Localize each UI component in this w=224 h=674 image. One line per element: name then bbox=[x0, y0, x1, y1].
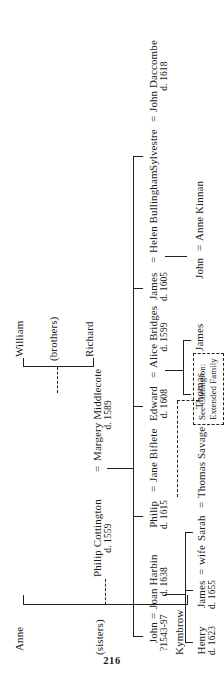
equals-sign: = bbox=[195, 500, 207, 510]
node-sisters: (sisters) bbox=[93, 619, 105, 655]
equals-sign: = bbox=[147, 484, 159, 494]
node-alice-bridges-dates: d. 1599 bbox=[159, 306, 170, 368]
node-margery-middlecote: Margery Middlecote d. 1589 bbox=[91, 369, 114, 461]
node-james-helen: James d. 1605 bbox=[147, 272, 170, 301]
marriage-equals-john2-annek: = bbox=[193, 243, 205, 253]
equals-sign: = bbox=[91, 464, 103, 474]
marriage-equals-sarah-savage: = bbox=[195, 500, 207, 510]
node-margery-middlecote-dates: d. 1589 bbox=[103, 369, 114, 461]
node-james-helen-name: James bbox=[147, 272, 159, 301]
descent-drop-john-joan bbox=[165, 594, 185, 595]
node-henry-dates: d. 1623 bbox=[207, 626, 218, 655]
node-alice-bridges: Alice Bridges d. 1599 bbox=[147, 306, 170, 368]
children-spine-john-joan bbox=[185, 533, 186, 643]
node-thomas: Thomas bbox=[193, 373, 205, 409]
brothers-bracket-stub-top bbox=[23, 358, 24, 367]
marriage-equals-philip-jane: = bbox=[147, 484, 159, 494]
marriage-equals-james-helen: = bbox=[147, 255, 159, 265]
see-box-line-2: Extended Family bbox=[208, 358, 219, 420]
node-joan-harbin-dates: d. 1638 bbox=[159, 554, 170, 609]
node-richard-name: Richard bbox=[83, 321, 95, 357]
children-spine-generation-2 bbox=[133, 157, 134, 637]
node-john-daccombe-name: John Daccombe bbox=[147, 40, 159, 112]
marriage-equals-edward-alice: = bbox=[147, 370, 159, 380]
child-stub-sarah bbox=[185, 532, 193, 533]
book-page: Anne (sisters) Kymbrow Philip Cottington… bbox=[0, 0, 224, 674]
brothers-bracket-stub-bottom bbox=[93, 358, 94, 367]
node-wife-label: wife bbox=[195, 545, 207, 565]
node-william-name: William bbox=[13, 321, 25, 357]
node-alice-bridges-name: Alice Bridges bbox=[147, 306, 159, 368]
node-sylvestre: Sylvestre bbox=[147, 129, 159, 171]
equals-sign: = bbox=[195, 567, 207, 577]
child-stub-james-son bbox=[183, 340, 191, 341]
node-anne: Anne bbox=[13, 627, 25, 651]
equals-sign: = bbox=[147, 370, 159, 380]
sisters-bracket-stub-bottom bbox=[187, 595, 188, 605]
child-stub-james bbox=[133, 288, 143, 289]
node-john-2: John bbox=[193, 258, 205, 279]
node-philip-2: Philip d. 1615 bbox=[147, 500, 170, 529]
node-sarah: Sarah bbox=[195, 515, 207, 541]
node-edward: Edward d. 1608 bbox=[147, 386, 170, 421]
node-james-wife: James d. 1655 bbox=[195, 580, 218, 609]
node-william: William bbox=[13, 321, 25, 357]
node-sarah-name: Sarah bbox=[195, 515, 207, 541]
node-helen-bullingham: Helen Bullingham bbox=[147, 170, 159, 253]
node-john-daccombe-dates: d. 1618 bbox=[159, 40, 170, 112]
node-thomas-savage: Thomas Savage bbox=[195, 427, 207, 498]
node-anne-kinnan: Anne Kinnan bbox=[193, 181, 205, 241]
node-jane-biflete-name: Jane Biflete bbox=[147, 429, 159, 482]
child-stub-henry bbox=[185, 642, 193, 643]
descent-drop-philip-margery bbox=[107, 468, 133, 469]
page-number: 216 bbox=[0, 655, 224, 666]
equals-sign: = bbox=[147, 255, 159, 265]
children-spine-edward-alice bbox=[183, 341, 184, 395]
node-philip-cottington-dates: d. 1559 bbox=[103, 499, 114, 577]
marriage-equals-sylvestre-johnd: = bbox=[147, 114, 159, 124]
node-anne-kinnan-name: Anne Kinnan bbox=[193, 181, 205, 241]
node-kymbrow: Kymbrow bbox=[173, 610, 185, 655]
node-margery-middlecote-name: Margery Middlecote bbox=[91, 369, 103, 461]
equals-sign: = bbox=[147, 114, 159, 124]
equals-sign: = bbox=[147, 611, 159, 621]
child-stub-john bbox=[133, 636, 143, 637]
rotated-chart-wrapper: Anne (sisters) Kymbrow Philip Cottington… bbox=[0, 0, 224, 674]
equals-sign: = bbox=[193, 243, 205, 253]
marriage-equals-james-wife: = bbox=[195, 567, 207, 577]
node-john-daccombe: John Daccombe d. 1618 bbox=[147, 40, 170, 112]
node-helen-bullingham-name: Helen Bullingham bbox=[147, 170, 159, 253]
child-stub-james-wife bbox=[185, 590, 193, 591]
node-sisters-label: (sisters) bbox=[93, 619, 105, 655]
node-thomas-savage-name: Thomas Savage bbox=[195, 427, 207, 498]
node-henry: Henry d. 1623 bbox=[195, 626, 218, 655]
margery-to-brothers-dashed-link bbox=[57, 367, 58, 393]
descent-drop-james-helen bbox=[165, 256, 187, 257]
node-joan-harbin: Joan Harbin d. 1638 bbox=[147, 554, 170, 609]
sisters-bracket-stub-top bbox=[23, 595, 24, 605]
child-stub-thomas bbox=[183, 394, 191, 395]
node-richard: Richard bbox=[83, 321, 95, 357]
node-henry-name: Henry bbox=[195, 626, 207, 655]
node-james-son: James bbox=[193, 324, 205, 351]
node-james-son-name: James bbox=[193, 324, 205, 351]
node-jane-biflete: Jane Biflete bbox=[147, 429, 159, 482]
sisters-to-philip-dashed-link bbox=[105, 579, 106, 605]
brothers-bracket-spine bbox=[23, 366, 93, 367]
marriage-equals-philip-margery: = bbox=[91, 464, 103, 474]
node-james-helen-dates: d. 1605 bbox=[159, 272, 170, 301]
node-philip-cottington: Philip Cottington d. 1559 bbox=[91, 499, 114, 577]
genealogy-chart: Anne (sisters) Kymbrow Philip Cottington… bbox=[7, 17, 217, 657]
node-philip-cottington-name: Philip Cottington bbox=[91, 499, 103, 577]
node-edward-dates: d. 1608 bbox=[159, 386, 170, 421]
cross-reference-dashed-link bbox=[177, 401, 178, 497]
child-stub-edward bbox=[133, 406, 143, 407]
node-james-wife-dates: d. 1655 bbox=[207, 580, 218, 609]
descent-drop-edward-alice bbox=[165, 370, 183, 371]
node-brothers: (brothers) bbox=[47, 317, 59, 361]
node-wife: wife bbox=[195, 545, 207, 565]
node-james-wife-name: James bbox=[195, 580, 207, 609]
node-thomas-name: Thomas bbox=[193, 373, 205, 409]
node-joan-harbin-name: Joan Harbin bbox=[147, 554, 159, 609]
node-john-2-name: John bbox=[193, 258, 205, 279]
